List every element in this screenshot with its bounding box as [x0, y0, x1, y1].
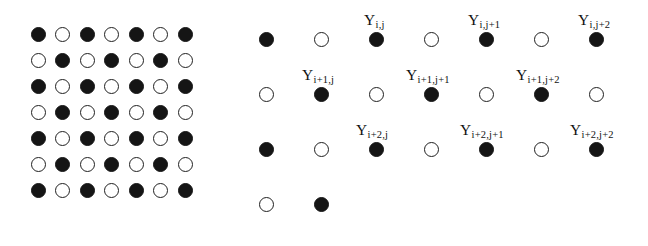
label-base: Y [570, 121, 581, 138]
right-label-3: Yi+1,j [302, 67, 334, 83]
labeled-lattice: Yi,jYi,j+1Yi,j+2Yi+1,jYi+1,j+1Yi+1,j+2Yi… [0, 0, 648, 246]
right-node-filled-r0-c2 [369, 32, 384, 47]
right-node-filled-r2-c6 [589, 142, 604, 157]
label-subscript: i,j+2 [590, 19, 611, 30]
label-base: Y [516, 66, 527, 83]
label-subscript: i+2,j [368, 129, 389, 140]
right-node-open-r0-c5 [534, 32, 549, 47]
right-node-filled-r1-c3 [424, 87, 439, 102]
label-base: Y [356, 121, 367, 138]
right-label-4: Yi+1,j+1 [406, 67, 450, 83]
right-node-filled-r2-c0 [259, 142, 274, 157]
label-base: Y [468, 11, 479, 28]
right-node-open-r2-c5 [534, 142, 549, 157]
label-base: Y [364, 11, 375, 28]
right-node-open-r1-c6 [589, 87, 604, 102]
right-node-filled-r2-c4 [479, 142, 494, 157]
right-node-filled-r2-c2 [369, 142, 384, 157]
right-node-open-r2-c3 [424, 142, 439, 157]
label-base: Y [406, 66, 417, 83]
right-node-open-r1-c2 [369, 87, 384, 102]
right-node-open-r1-c0 [259, 87, 274, 102]
right-node-open-r0-c1 [314, 32, 329, 47]
right-node-open-r2-c1 [314, 142, 329, 157]
right-label-6: Yi+2,j [356, 122, 388, 138]
right-node-filled-r3-c1 [314, 197, 329, 212]
right-node-open-r1-c4 [479, 87, 494, 102]
right-node-filled-r0-c4 [479, 32, 494, 47]
right-label-8: Yi+2,j+2 [570, 122, 614, 138]
label-subscript: i+2,j+2 [582, 129, 614, 140]
right-label-0: Yi,j [364, 12, 384, 28]
right-label-1: Yi,j+1 [468, 12, 500, 28]
label-subscript: i+1,j [314, 74, 335, 85]
label-subscript: i+1,j+1 [418, 74, 450, 85]
right-node-open-r0-c3 [424, 32, 439, 47]
label-subscript: i+1,j+2 [528, 74, 560, 85]
right-node-filled-r0-c6 [589, 32, 604, 47]
label-base: Y [460, 121, 471, 138]
figure-canvas: Yi,jYi,j+1Yi,j+2Yi+1,jYi+1,j+1Yi+1,j+2Yi… [0, 0, 648, 246]
right-node-open-r3-c0 [259, 197, 274, 212]
right-node-filled-r1-c5 [534, 87, 549, 102]
label-subscript: i,j+1 [480, 19, 501, 30]
right-node-filled-r1-c1 [314, 87, 329, 102]
right-label-7: Yi+2,j+1 [460, 122, 504, 138]
right-label-5: Yi+1,j+2 [516, 67, 560, 83]
label-base: Y [302, 66, 313, 83]
right-label-2: Yi,j+2 [578, 12, 610, 28]
label-subscript: i,j [376, 19, 385, 30]
right-node-filled-r0-c0 [259, 32, 274, 47]
label-subscript: i+2,j+1 [472, 129, 504, 140]
label-base: Y [578, 11, 589, 28]
